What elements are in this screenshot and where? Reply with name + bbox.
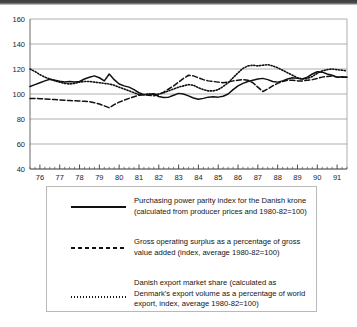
x-axis-tick-labels: 76777879808182838485868788899091 (36, 173, 342, 182)
svg-text:87: 87 (254, 173, 262, 182)
chart-plot-area: 406080100120140160 767778798081828384858… (0, 8, 357, 186)
svg-text:76: 76 (36, 173, 44, 182)
series-line (30, 75, 347, 108)
svg-text:91: 91 (333, 173, 341, 182)
svg-text:79: 79 (95, 173, 103, 182)
svg-text:80: 80 (17, 115, 25, 124)
legend-label-export-market-share: Danish export market share (calculated a… (134, 278, 314, 310)
svg-text:80: 80 (115, 173, 123, 182)
svg-text:77: 77 (56, 173, 64, 182)
figure-container: 406080100120140160 767778798081828384858… (0, 0, 357, 327)
legend-label-ppp: Purchasing power parity index for the Da… (134, 196, 314, 217)
scan-edge-artifact (0, 0, 357, 5)
svg-text:83: 83 (174, 173, 182, 182)
svg-text:78: 78 (75, 173, 83, 182)
svg-text:86: 86 (234, 173, 242, 182)
svg-text:85: 85 (214, 173, 222, 182)
svg-text:82: 82 (155, 173, 163, 182)
svg-text:84: 84 (194, 173, 202, 182)
svg-text:40: 40 (17, 165, 25, 174)
legend: Purchasing power parity index for the Da… (46, 186, 317, 312)
svg-text:60: 60 (17, 140, 25, 149)
solid-line-sample (71, 201, 126, 213)
legend-entry-gross-operating-surplus: Gross operating surplus as a percentage … (47, 237, 318, 258)
svg-text:90: 90 (313, 173, 321, 182)
legend-entry-ppp: Purchasing power parity index for the Da… (47, 196, 318, 217)
line-chart-svg: 406080100120140160 767778798081828384858… (0, 8, 357, 186)
svg-text:140: 140 (12, 40, 25, 49)
dotted-line-sample (71, 291, 126, 303)
y-axis-tick-labels: 406080100120140160 (12, 15, 25, 174)
x-axis-minor-ticks (30, 165, 347, 170)
svg-text:89: 89 (293, 173, 301, 182)
gridlines (30, 19, 347, 169)
dashed-line-sample (71, 242, 126, 254)
svg-text:160: 160 (12, 15, 25, 24)
data-series-lines (30, 65, 347, 108)
svg-text:120: 120 (12, 65, 25, 74)
svg-text:81: 81 (135, 173, 143, 182)
svg-text:88: 88 (273, 173, 281, 182)
legend-label-gross-operating-surplus: Gross operating surplus as a percentage … (134, 237, 314, 258)
legend-entry-export-market-share: Danish export market share (calculated a… (47, 278, 318, 310)
svg-text:100: 100 (12, 90, 25, 99)
